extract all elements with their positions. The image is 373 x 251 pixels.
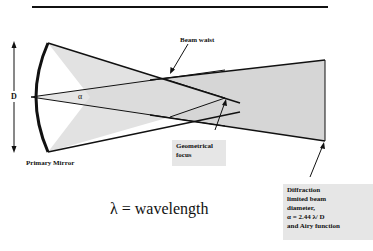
diffraction-note-line-2: limited beam [287,195,369,204]
aperture-arrow-down-icon [12,146,17,153]
aperture-arrow-up-icon [12,41,17,48]
diffraction-arrow-icon [320,142,325,149]
diffraction-note-box: Diffraction limited beam diameter, α = 2… [283,184,373,240]
angle-label: α [78,92,82,101]
beam-waist-label: Beam waist [180,36,214,45]
geometrical-focus-box: Geometrical focus [172,140,226,166]
wavelength-legend: λ = wavelength [110,200,209,218]
diffraction-note-line-3: diameter, [287,204,369,213]
diffraction-note-line-4: α = 2.44 λ/ D [287,213,369,222]
geometrical-focus-line-1: Geometrical [176,142,222,151]
diffraction-note-line-5: and Airy function [287,222,369,231]
aperture-label: D [11,92,17,101]
beam-waist-leader [172,44,188,71]
diffraction-leader [310,145,323,177]
diffraction-note-line-1: Diffraction [287,186,369,195]
primary-mirror-label: Primary Mirror [26,159,74,168]
geometrical-focus-line-2: focus [176,151,222,160]
